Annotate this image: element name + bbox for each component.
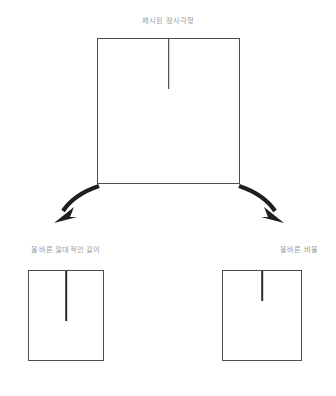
arrow-left-head xyxy=(54,207,77,223)
stimulus-comparison-diagram: 제시된 정사각형 올바른 절대적인 길이 올바른 비율 xyxy=(0,0,336,396)
absolute-length-square xyxy=(28,270,104,361)
presented-square xyxy=(97,38,240,184)
relative-ratio-label: 올바른 비율 xyxy=(280,245,318,254)
page-title: 제시된 정사각형 xyxy=(142,16,195,25)
presented-square-line xyxy=(168,39,170,89)
arrow-right-head xyxy=(261,207,284,223)
absolute-length-square-line xyxy=(65,271,67,321)
relative-ratio-square xyxy=(222,270,302,361)
relative-ratio-square-line xyxy=(261,271,263,301)
arrow-right xyxy=(239,186,284,223)
absolute-length-label: 올바른 절대적인 길이 xyxy=(31,245,100,254)
arrow-left xyxy=(54,186,99,223)
